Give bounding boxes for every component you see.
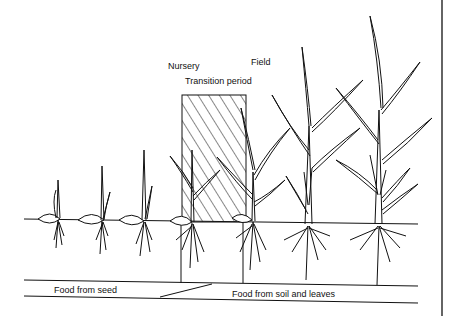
rice-growth-diagram <box>0 0 454 316</box>
field-label: Field <box>251 58 271 67</box>
food-band-divider <box>160 284 212 297</box>
seedling-stage-1 <box>38 180 64 248</box>
seedling-stage-2 <box>78 166 110 254</box>
plant-stage-7 <box>336 16 432 285</box>
nursery-label: Nursery <box>168 62 200 71</box>
food-from-seed-label: Food from seed <box>54 286 117 295</box>
food-from-soil-label: Food from soil and leaves <box>232 290 335 299</box>
transition-period-label: Transition period <box>185 77 252 86</box>
food-band-bottom <box>24 296 418 303</box>
plant-stage-6 <box>272 47 363 280</box>
seedling-stage-3 <box>119 150 152 256</box>
